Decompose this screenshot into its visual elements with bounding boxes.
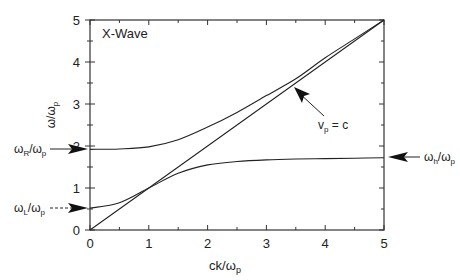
y-tick-label: 1 — [73, 181, 80, 196]
plot-frame: 001122334455 — [73, 13, 388, 251]
x-tick-label: 4 — [322, 236, 329, 251]
x-tick-label: 1 — [145, 236, 152, 251]
y-tick-label: 4 — [73, 55, 80, 70]
omega-l-annotation: ωL/ωp — [14, 201, 88, 217]
dispersion-chart: 001122334455 X-Wave ck/ωp ω/ωp ωR/ωp ωL/… — [0, 0, 460, 280]
x-tick-label: 5 — [380, 236, 387, 251]
omega-h-annotation: ωh/ωp — [388, 150, 456, 166]
y-tick-label: 0 — [73, 223, 80, 238]
omega-l-label: ωL/ωp — [14, 201, 46, 217]
omega-r-label: ωR/ωp — [14, 142, 47, 158]
curve-line — [90, 158, 384, 208]
x-axis-label: ck/ωp — [209, 258, 241, 275]
y-tick-label: 3 — [73, 97, 80, 112]
y-tick-label: 5 — [73, 13, 80, 28]
vp-annotation: vp = c — [294, 87, 348, 134]
vp-label: vp = c — [318, 118, 348, 134]
x-tick-label: 2 — [204, 236, 211, 251]
y-axis-label: ω/ωp — [44, 101, 60, 128]
omega-h-label: ωh/ωp — [424, 150, 456, 166]
chart-title: X-Wave — [102, 26, 148, 41]
x-tick-label: 0 — [86, 236, 93, 251]
x-tick-label: 3 — [263, 236, 270, 251]
